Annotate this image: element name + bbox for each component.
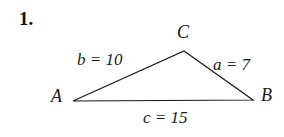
side-label-a: a = 7 — [213, 56, 250, 73]
figure-canvas: 1. A B C b = 10 a = 7 c = 15 — [0, 0, 284, 137]
vertex-label-a: A — [51, 87, 62, 105]
side-label-b: b = 10 — [77, 51, 122, 68]
vertex-label-c: C — [177, 23, 189, 41]
vertex-label-b: B — [261, 86, 272, 104]
side-label-c: c = 15 — [143, 109, 188, 126]
